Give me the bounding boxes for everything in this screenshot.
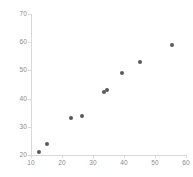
- y-tick-40: [28, 99, 31, 100]
- y-axis-line: [31, 14, 32, 155]
- y-tick-30: [28, 127, 31, 128]
- data-point: [138, 60, 142, 64]
- x-tick-50: [155, 155, 156, 158]
- data-point: [105, 88, 109, 92]
- x-tick-label-40: 40: [114, 159, 134, 166]
- y-tick-label-60: 60: [9, 38, 27, 45]
- x-tick-label-50: 50: [145, 159, 165, 166]
- data-point: [170, 43, 174, 47]
- y-tick-70: [28, 14, 31, 15]
- x-tick-60: [186, 155, 187, 158]
- data-point: [69, 116, 73, 120]
- x-axis-line: [31, 155, 186, 156]
- data-point: [120, 71, 124, 75]
- x-tick-40: [124, 155, 125, 158]
- y-tick-label-50: 50: [9, 66, 27, 73]
- x-tick-10: [31, 155, 32, 158]
- y-tick-label-40: 40: [9, 95, 27, 102]
- y-tick-label-30: 30: [9, 123, 27, 130]
- x-tick-20: [62, 155, 63, 158]
- x-tick-label-30: 30: [83, 159, 103, 166]
- data-point: [80, 114, 84, 118]
- y-tick-50: [28, 70, 31, 71]
- y-tick-60: [28, 42, 31, 43]
- x-tick-label-20: 20: [52, 159, 72, 166]
- y-tick-label-20: 20: [9, 151, 27, 158]
- x-tick-30: [93, 155, 94, 158]
- x-tick-label-10: 10: [21, 159, 41, 166]
- y-tick-label-70: 70: [9, 10, 27, 17]
- data-point: [45, 142, 49, 146]
- scatter-chart: 203040506070 102030405060: [0, 0, 193, 177]
- x-tick-label-60: 60: [176, 159, 193, 166]
- plot-area: 203040506070 102030405060: [0, 0, 193, 177]
- data-point: [37, 150, 41, 154]
